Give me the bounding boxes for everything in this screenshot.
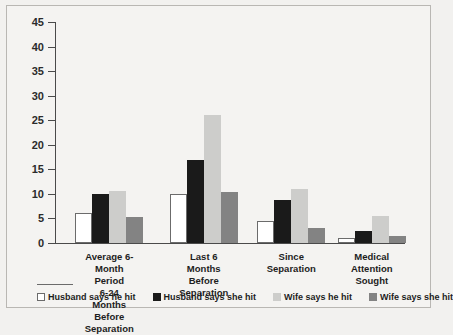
- y-tick-mark: [48, 22, 55, 23]
- chart-frame: 454035302520151050 Average 6-Month Perio…: [6, 5, 431, 308]
- legend-divider: [37, 284, 73, 285]
- y-tick-label: 10: [32, 188, 44, 200]
- y-tick-mark: [48, 47, 55, 48]
- bar: [204, 115, 221, 243]
- y-tick-label: 30: [32, 90, 44, 102]
- bar: [338, 238, 355, 243]
- bar: [126, 217, 143, 243]
- x-axis-group-label: Medical Attention Sought: [351, 251, 393, 287]
- legend-swatch-icon: [153, 293, 161, 301]
- y-tick-mark: [48, 96, 55, 97]
- legend-item[interactable]: Husband says she hit: [153, 292, 257, 302]
- bar: [92, 194, 109, 243]
- y-tick-mark: [48, 71, 55, 72]
- bar: [389, 236, 406, 243]
- legend-label: Husband says he hit: [48, 292, 136, 302]
- bar-group: Last 6 Months Before Separation: [170, 22, 238, 243]
- bar: [372, 216, 389, 243]
- plot-area: 454035302520151050 Average 6-Month Perio…: [55, 22, 405, 243]
- y-tick-mark: [48, 194, 55, 195]
- legend-label: Wife says he hit: [284, 292, 352, 302]
- legend-item[interactable]: Wife says she hit: [369, 292, 453, 302]
- y-axis-line: [55, 22, 56, 243]
- chart-legend: Husband says he hitHusband says she hitW…: [37, 292, 417, 302]
- y-tick-label: 40: [32, 41, 44, 53]
- bar: [187, 160, 204, 243]
- bar: [221, 192, 238, 243]
- bar: [291, 189, 308, 243]
- bar-group: Medical Attention Sought: [338, 22, 406, 243]
- x-axis-group-label: Since Separation: [267, 251, 316, 275]
- bar: [355, 231, 372, 243]
- y-tick-label: 45: [32, 16, 44, 28]
- legend-swatch-icon: [37, 293, 45, 301]
- legend-label: Wife says she hit: [380, 292, 453, 302]
- y-tick-mark: [48, 145, 55, 146]
- y-tick-label: 15: [32, 163, 44, 175]
- y-tick-mark: [48, 169, 55, 170]
- y-tick-mark: [48, 243, 55, 244]
- bar: [257, 221, 274, 243]
- bar: [75, 213, 92, 243]
- y-tick-mark: [48, 218, 55, 219]
- y-tick-label: 35: [32, 65, 44, 77]
- y-tick-mark: [48, 120, 55, 121]
- bar: [308, 228, 325, 243]
- bar-group: Average 6-Month Period 6-24 Months Befor…: [75, 22, 143, 243]
- x-axis-line: [55, 243, 405, 244]
- legend-item[interactable]: Husband says he hit: [37, 292, 136, 302]
- legend-label: Husband says she hit: [164, 292, 257, 302]
- legend-item[interactable]: Wife says he hit: [273, 292, 352, 302]
- bar: [274, 200, 291, 243]
- legend-swatch-icon: [273, 293, 281, 301]
- bar: [109, 191, 126, 243]
- y-tick-label: 25: [32, 114, 44, 126]
- y-tick-label: 20: [32, 139, 44, 151]
- y-tick-label: 5: [38, 212, 44, 224]
- bar-group: Since Separation: [257, 22, 325, 243]
- bar: [170, 194, 187, 243]
- y-tick-label: 0: [38, 237, 44, 249]
- legend-swatch-icon: [369, 293, 377, 301]
